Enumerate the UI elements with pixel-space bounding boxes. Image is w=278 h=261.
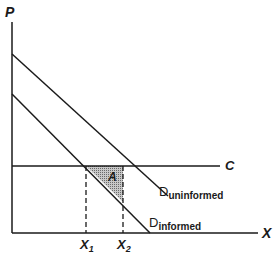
x-axis-label: X (261, 225, 273, 241)
area-a-shaded-region (86, 166, 123, 202)
diagram-canvas: P X C A Duninformed Dinformed X1 X2 (0, 0, 278, 261)
area-a-label: A (107, 170, 117, 184)
demand-informed-label: Dinformed (149, 215, 201, 232)
demand-uninformed-line (12, 54, 168, 196)
y-axis-label: P (5, 4, 15, 20)
x1-sub: 1 (89, 244, 94, 254)
cost-line-label: C (225, 158, 235, 173)
demand-informed-main: D (149, 215, 158, 230)
demand-informed-line (12, 94, 150, 233)
x2-sub: 2 (125, 244, 131, 254)
x2-label: X2 (116, 237, 131, 254)
demand-uninformed-label: Duninformed (159, 184, 223, 201)
demand-uninformed-sub: uninformed (168, 190, 223, 201)
demand-uninformed-main: D (159, 184, 168, 199)
x1-label: X1 (79, 237, 94, 254)
demand-informed-sub: informed (158, 221, 201, 232)
